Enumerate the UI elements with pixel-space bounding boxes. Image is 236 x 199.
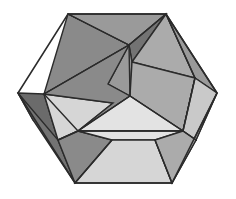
edge-center-to-upper-node: [129, 45, 130, 96]
polyhedron-figure: [0, 0, 236, 199]
polyhedron-svg: [0, 0, 236, 199]
